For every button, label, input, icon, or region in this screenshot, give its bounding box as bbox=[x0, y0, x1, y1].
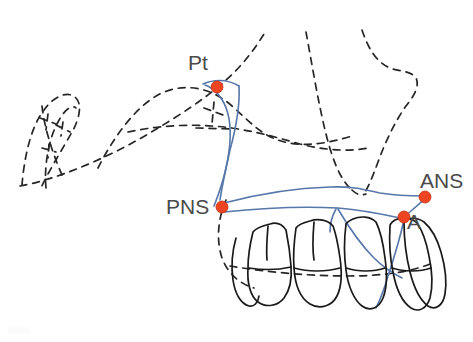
tooth-molar-2 bbox=[294, 220, 342, 307]
tooth-molar-2-cemento-line bbox=[294, 268, 340, 271]
landmark-dot-ans[interactable] bbox=[419, 191, 431, 203]
landmark-label-ans: ANS bbox=[420, 170, 463, 191]
landmark-dots bbox=[211, 81, 431, 223]
tooth-distal-sliver bbox=[232, 238, 259, 306]
nasal-floor-descent-left bbox=[306, 32, 352, 190]
landmark-label-pt: Pt bbox=[188, 52, 208, 73]
tooth-molar-1-root-groove bbox=[267, 226, 268, 260]
porion-cross-mark bbox=[204, 102, 226, 124]
sella-cross-mark bbox=[40, 114, 56, 130]
skull-dashed-outlines bbox=[20, 30, 430, 288]
fh-tick-left bbox=[196, 128, 230, 129]
hard-palate-nasal-floor bbox=[224, 187, 424, 203]
tooth-molar-1-cemento-line bbox=[249, 267, 291, 269]
mandibular-foramen-mark bbox=[42, 144, 56, 158]
cephalometric-figure: Pt PNS ANS A bbox=[0, 0, 473, 342]
tracing-canvas bbox=[0, 0, 473, 342]
landmark-dot-pt[interactable] bbox=[211, 81, 223, 93]
pterygomaxillary-fissure-posterior bbox=[205, 85, 230, 206]
corner-artifact bbox=[8, 327, 30, 334]
landmark-label-pns: PNS bbox=[166, 196, 209, 217]
hard-palate-oral-surface bbox=[224, 207, 400, 218]
landmark-label-a: A bbox=[407, 211, 421, 232]
tooth-premolar-1-cemento-line bbox=[346, 268, 385, 271]
tooth-molar-1 bbox=[248, 223, 291, 305]
ramus-posterior-border bbox=[42, 106, 62, 175]
tooth-molar-2-root-groove bbox=[313, 222, 314, 260]
frankfort-horizontal-dashed bbox=[128, 125, 368, 150]
coronoid-notch-mark bbox=[56, 122, 70, 136]
alveolar-posterior-dashed bbox=[219, 200, 254, 288]
landmark-dot-pns[interactable] bbox=[216, 201, 228, 213]
orbital-rim-right bbox=[362, 30, 417, 194]
orbital-floor-v-join bbox=[352, 190, 366, 195]
condyle-loop-inner bbox=[46, 107, 77, 188]
